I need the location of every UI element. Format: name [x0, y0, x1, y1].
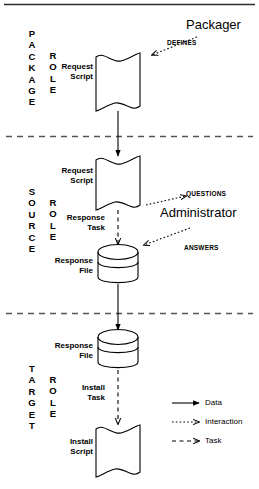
actor-packager: Packager [186, 17, 241, 32]
source-request-script-label: Request Script [43, 166, 93, 186]
edge-label-response-task: Response Task [48, 213, 105, 233]
source-response-file-shape [98, 245, 138, 283]
actor-administrator: Administrator [160, 205, 237, 220]
answers-arrow [144, 228, 190, 245]
lane-label-target-name: T A R G E T [26, 363, 38, 431]
edge-label-questions: QUESTIONS [186, 190, 226, 197]
legend-label-task: Task [205, 436, 221, 445]
source-request-script-shape [96, 156, 140, 210]
edge-label-answers: ANSWERS [184, 244, 219, 251]
target-response-file-shape [98, 330, 138, 368]
target-response-file-label: Response File [38, 341, 93, 361]
target-install-script-shape [96, 425, 140, 477]
package-request-script-label: Request Script [43, 62, 93, 82]
questions-arrow [146, 196, 186, 205]
target-install-script-label: Install Script [43, 437, 93, 457]
workflow-diagram: P A C K A G E R O L E S O U R C E R O L … [0, 0, 259, 489]
edge-label-install-task: Install Task [48, 383, 105, 403]
legend-label-interaction: Interaction [205, 417, 242, 426]
source-response-file-label: Response File [38, 256, 93, 276]
lane-label-source-name: S O U R C E [26, 186, 38, 254]
legend-label-data: Data [205, 398, 222, 407]
diagram-canvas [0, 0, 259, 489]
lane-label-package-name: P A C K A G E [26, 28, 38, 108]
package-request-script-shape [96, 53, 140, 111]
edge-label-defines: DEFINES [167, 39, 197, 46]
